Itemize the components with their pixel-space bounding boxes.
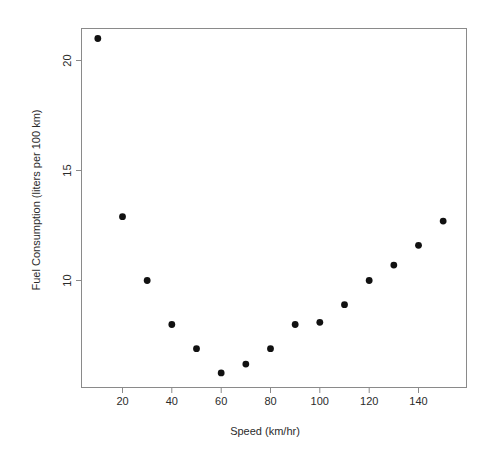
data-point <box>292 321 299 328</box>
data-point <box>168 321 175 328</box>
x-tick-label-120: 120 <box>360 395 378 407</box>
chart-figure: 10 15 20 20 40 60 80 100 120 140 Speed (… <box>0 0 490 456</box>
x-tick-label-60: 60 <box>215 395 227 407</box>
data-point <box>119 213 126 220</box>
data-point <box>94 35 101 42</box>
data-point <box>193 345 200 352</box>
data-point <box>341 301 348 308</box>
data-point <box>242 361 249 368</box>
data-point <box>390 262 397 269</box>
y-tick-label-20: 20 <box>61 54 73 66</box>
x-tick-label-140: 140 <box>409 395 427 407</box>
x-tick-label-80: 80 <box>264 395 276 407</box>
scatter-plot-svg: 10 15 20 20 40 60 80 100 120 140 Speed (… <box>0 0 490 456</box>
data-point <box>267 345 274 352</box>
data-point <box>316 319 323 326</box>
x-tick-label-40: 40 <box>166 395 178 407</box>
x-tick-label-100: 100 <box>311 395 329 407</box>
x-tick-label-20: 20 <box>116 395 128 407</box>
data-point <box>366 277 373 284</box>
y-tick-label-10: 10 <box>61 274 73 286</box>
data-point <box>144 277 151 284</box>
y-tick-label-15: 15 <box>61 164 73 176</box>
data-point <box>440 218 447 225</box>
data-point <box>415 242 422 249</box>
y-axis-title: Fuel Consumption (liters per 100 km) <box>30 110 42 291</box>
data-point <box>218 370 225 377</box>
x-axis-title: Speed (km/hr) <box>230 425 300 437</box>
